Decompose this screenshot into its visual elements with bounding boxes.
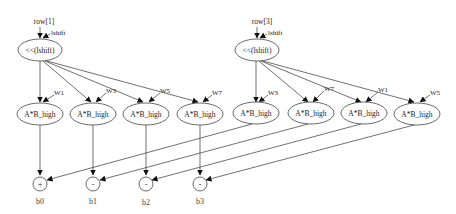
edge-mul-out-diag <box>152 124 361 180</box>
multiplier-label: A*B_high <box>130 110 162 119</box>
multiplier-label: A*B_high <box>24 110 56 119</box>
dataflow-diagram: row[1] lshift <<(lshift) W1 W3 W5 W7 A*B… <box>0 0 456 214</box>
input-label-row3: row[3] <box>252 17 272 26</box>
edge-mul-out-diag <box>206 125 414 180</box>
weight-edge-w7 <box>313 91 324 102</box>
multiplier-label: A*B_high <box>240 109 272 118</box>
weight-edge-w1 <box>43 95 54 102</box>
weight-edge-w7 <box>203 95 212 102</box>
op-symbol: + <box>38 180 42 189</box>
multiplier-node: A*B_high <box>17 103 63 125</box>
multiplier-node: A*B_high <box>123 103 169 125</box>
weight-edge-w3 <box>96 93 106 102</box>
multiplier-label: A*B_high <box>184 110 216 119</box>
weight-edge-w5 <box>420 95 430 102</box>
edge-mul-out-diag <box>100 124 308 180</box>
shift-node-row3: <<(lshift) <box>235 39 279 61</box>
edge-shift1-mul4 <box>47 61 198 102</box>
shift-node-label: <<(lshift) <box>26 46 55 55</box>
edge-shift2-mul4 <box>263 61 414 102</box>
shift-node-label: <<(lshift) <box>243 46 272 55</box>
weight-label: W5 <box>160 87 171 95</box>
output-label: b2 <box>142 198 150 207</box>
input-label-row1: row[1] <box>34 17 54 26</box>
weight-edge-w5 <box>149 93 160 102</box>
multiplier-node: A*B_high <box>70 103 116 125</box>
shift-node-row1: <<(lshift) <box>18 39 62 61</box>
multiplier-label: A*B_high <box>295 109 327 118</box>
edge-mul-out-diag <box>47 124 252 180</box>
weight-label: W1 <box>54 89 65 97</box>
multiplier-node: A*B_high <box>177 103 223 125</box>
output-node-b3: - b3 <box>193 177 207 206</box>
weight-label: W3 <box>106 87 117 95</box>
weight-label: W7 <box>324 85 335 93</box>
weight-label: W1 <box>378 86 389 94</box>
group-row3: row[3] lshift <<(lshift) W3 W7 W1 W5 A*B… <box>47 17 441 180</box>
output-node-b1: - b1 <box>86 177 100 206</box>
weight-edge-w1 <box>366 92 378 102</box>
lshift-edge-row3 <box>260 34 267 38</box>
weight-edge-w3 <box>259 95 268 102</box>
weight-label: W7 <box>212 89 223 97</box>
multiplier-node: A*B_high <box>233 102 279 124</box>
multiplier-label: A*B_high <box>77 110 109 119</box>
multiplier-label: A*B_high <box>401 110 433 119</box>
lshift-label-row3: lshift <box>268 29 282 37</box>
multiplier-node: A*B_high <box>288 102 334 124</box>
edge-shift1-mul2 <box>43 61 91 102</box>
multiplier-label: A*B_high <box>348 109 380 118</box>
output-node-b2: - b2 <box>139 177 153 207</box>
lshift-edge-row1 <box>43 34 50 38</box>
output-node-b0: + b0 <box>33 177 47 206</box>
multiplier-node: A*B_high <box>394 103 440 125</box>
outputs: + b0 - b1 - b2 - b3 <box>33 177 207 207</box>
output-label: b3 <box>196 197 204 206</box>
multiplier-node: A*B_high <box>341 102 387 124</box>
weight-label: W3 <box>268 89 279 97</box>
output-label: b1 <box>89 197 97 206</box>
lshift-label-row1: lshift <box>51 29 65 37</box>
output-label: b0 <box>36 197 44 206</box>
group-row1: row[1] lshift <<(lshift) W1 W3 W5 W7 A*B… <box>17 17 223 175</box>
weight-label: W5 <box>430 89 441 97</box>
